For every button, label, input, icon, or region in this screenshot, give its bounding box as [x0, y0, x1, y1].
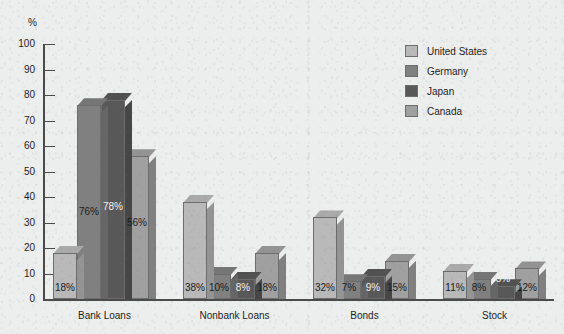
bar-side-face — [409, 261, 416, 299]
bar-value-label: 15% — [385, 283, 409, 293]
bar-value-label: 10% — [207, 283, 231, 293]
legend-item-label: Canada — [427, 106, 462, 117]
legend-item-label: United States — [427, 46, 487, 57]
legend-item-united-states[interactable]: United States — [405, 42, 487, 60]
y-axis-tick-label: 70 — [9, 116, 35, 126]
y-axis-tick-label: 0 — [9, 294, 35, 304]
y-axis-tick-mark — [44, 172, 55, 173]
bar-value-label: 9% — [361, 283, 385, 293]
category-label-stock: Stock — [413, 310, 564, 321]
bar-chart: % 1009080706050403020100 56%78%76%18%18%… — [0, 0, 564, 334]
legend-swatch-icon — [405, 65, 418, 77]
bar-value-label: 5% — [491, 274, 515, 284]
bar-value-label: 76% — [77, 207, 101, 217]
y-axis-unit-label: % — [28, 17, 37, 28]
bar-side-face — [539, 268, 546, 299]
bar-side-face — [279, 253, 286, 299]
legend-swatch-icon — [405, 105, 418, 117]
bar-value-label: 8% — [467, 283, 491, 293]
y-axis-tick-label: 40 — [9, 192, 35, 202]
legend-item-germany[interactable]: Germany — [405, 62, 487, 80]
legend-item-japan[interactable]: Japan — [405, 82, 487, 100]
bar-value-label: 56% — [125, 218, 149, 228]
legend-swatch-icon — [405, 85, 418, 97]
legend: United StatesGermanyJapanCanada — [405, 42, 487, 122]
y-axis-tick-label: 80 — [9, 90, 35, 100]
bar-side-face — [77, 253, 84, 299]
y-axis-tick-label: 20 — [9, 243, 35, 253]
y-axis-tick-mark — [44, 223, 55, 224]
bar-value-label: 18% — [53, 283, 77, 293]
bar-side-face — [125, 100, 132, 299]
legend-item-label: Japan — [427, 86, 454, 97]
y-axis-tick-label: 90 — [9, 65, 35, 75]
legend-item-label: Germany — [427, 66, 468, 77]
y-axis-tick-mark — [44, 146, 55, 147]
y-axis-tick-label: 100 — [9, 39, 35, 49]
bar-side-face — [149, 156, 156, 299]
bar-value-label: 12% — [515, 283, 539, 293]
y-axis-tick-label: 30 — [9, 218, 35, 228]
y-axis-tick-mark — [44, 44, 55, 45]
y-axis-tick-label: 50 — [9, 167, 35, 177]
bar-value-label: 38% — [183, 283, 207, 293]
legend-item-canada[interactable]: Canada — [405, 102, 487, 120]
y-axis-tick-label: 60 — [9, 141, 35, 151]
bar-value-label: 11% — [443, 283, 467, 293]
bar-value-label: 78% — [101, 202, 125, 212]
legend-swatch-icon — [405, 45, 418, 57]
bar-value-label: 7% — [337, 283, 361, 293]
y-axis-tick-mark — [44, 70, 55, 71]
x-axis-baseline — [43, 299, 554, 301]
y-axis-tick-label: 10 — [9, 269, 35, 279]
bar-value-label: 18% — [255, 283, 279, 293]
bar-value-label: 8% — [231, 283, 255, 293]
bar-value-label: 32% — [313, 283, 337, 293]
y-axis-tick-mark — [44, 121, 55, 122]
y-axis-tick-mark — [44, 197, 55, 198]
y-axis-tick-mark — [44, 95, 55, 96]
